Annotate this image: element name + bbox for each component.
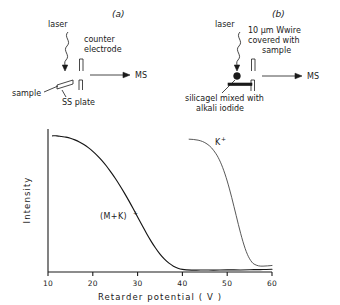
extraction-electrode-icon [79, 80, 83, 90]
panel-a-sample-leader [44, 86, 58, 92]
xtick-label: 10 [43, 279, 53, 288]
xtick-label: 20 [88, 279, 98, 288]
panel-a: (a) laser counter electrode MS sample [12, 9, 147, 107]
wavy-beam-icon [237, 32, 241, 66]
wavy-beam-icon [65, 32, 69, 66]
panel-b-laser-label: laser [215, 20, 235, 29]
annotation-k-plus: K + [215, 135, 226, 147]
figure-root: (a) laser counter electrode MS sample [0, 0, 340, 305]
down-arrow-icon [234, 65, 239, 71]
panel-b-wire-line2: covered with [248, 36, 300, 45]
panel-b-ms-label: MS [307, 72, 319, 81]
panel-a-ms-label: MS [135, 71, 147, 80]
electrode-icon [252, 59, 256, 71]
annotation-m-plus-k-sup: + [133, 209, 138, 216]
chart-x-ticklabels: 10 20 30 40 50 60 [43, 279, 277, 288]
panel-a-plate-label: SS plate [62, 98, 95, 107]
panel-a-counter-line1: counter [84, 35, 115, 44]
panel-b-wire-line1: 10 µm Wwire [248, 26, 301, 35]
chart-x-ticks [48, 272, 272, 276]
panel-b-letter: (b) [272, 9, 285, 19]
scientific-figure: (a) laser counter electrode MS sample [0, 0, 340, 305]
right-arrow-icon [90, 72, 130, 78]
panel-b-matrix-line2: alkali iodide [196, 104, 244, 113]
annotation-k-plus-sup: + [221, 135, 226, 142]
panel-a-plate-leader [62, 90, 66, 97]
slanted-plate-icon [57, 80, 73, 89]
annotation-m-plus-k-text: (M+K) [100, 212, 127, 221]
annotation-m-plus-k: (M+K) + [100, 209, 138, 221]
retarding-potential-chart: 10 20 30 40 50 60 Retarder potential ( V… [22, 129, 277, 302]
chart-x-axis-title: Retarder potential ( V ) [98, 292, 222, 302]
panel-a-sample-label: sample [12, 89, 41, 98]
panel-b-matrix-leader [222, 80, 235, 93]
panel-b-wire-line3: sample [262, 46, 291, 55]
sample-droplet-icon [234, 73, 241, 80]
panel-a-counter-line2: electrode [84, 45, 122, 54]
panel-a-letter: (a) [112, 9, 125, 19]
right-arrow-icon [262, 73, 302, 79]
xtick-label: 40 [177, 279, 187, 288]
panel-b: (b) laser 10 µm Wwire covered with sampl… [185, 9, 319, 113]
panel-a-laser-label: laser [48, 20, 68, 29]
xtick-label: 50 [222, 279, 232, 288]
down-arrow-icon [62, 65, 67, 71]
chart-y-axis-title: Intensity [22, 177, 32, 224]
data-curve-m-plus-k [52, 136, 272, 270]
electrode-icon [80, 59, 84, 71]
xtick-label: 30 [133, 279, 143, 288]
panel-b-matrix-line1: silicagel mixed with [185, 94, 264, 103]
data-curve-k-plus [189, 139, 272, 266]
xtick-label: 60 [267, 279, 277, 288]
